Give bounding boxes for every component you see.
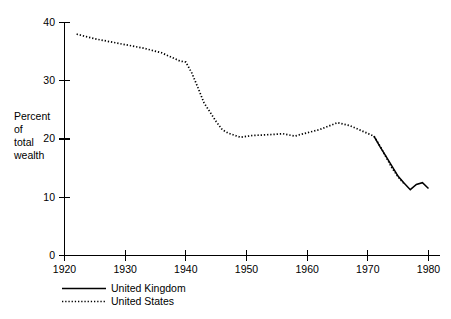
chart-legend: United Kingdom United States	[62, 282, 186, 307]
y-tick-label-10: 10	[43, 191, 55, 203]
x-tick-label-1920: 1920	[53, 263, 77, 275]
y-tick-label-40: 40	[43, 16, 55, 28]
x-tick-label-1950: 1950	[235, 263, 259, 275]
x-tick-label-1940: 1940	[174, 263, 198, 275]
legend-label-united-kingdom: United Kingdom	[111, 282, 186, 294]
legend-item-united-states[interactable]: United States	[62, 295, 174, 307]
chart-figure: Percent of total wealth 40 30 20 10 0	[0, 0, 451, 319]
y-axis-tick-labels: 40 30 20 10 0	[43, 16, 55, 261]
x-tick-label-1960: 1960	[296, 263, 320, 275]
x-tick-label-1980: 1980	[417, 263, 441, 275]
y-axis-caption-line-2: total	[14, 136, 34, 148]
y-axis-caption-line-3: wealth	[13, 149, 45, 161]
legend-label-united-states: United States	[111, 295, 174, 307]
series-line-united-states	[77, 34, 405, 184]
series-line-united-kingdom	[374, 136, 429, 190]
x-tick-label-1970: 1970	[356, 263, 380, 275]
legend-item-united-kingdom[interactable]: United Kingdom	[62, 282, 186, 294]
y-tick-label-20: 20	[43, 132, 55, 144]
x-tick-label-1930: 1930	[114, 263, 138, 275]
y-tick-label-30: 30	[43, 74, 55, 86]
x-axis-tick-labels: 1920 1930 1940 1950 1960 1970 1980	[53, 263, 441, 275]
data-series-group	[77, 34, 429, 190]
axes	[65, 22, 441, 256]
line-chart: Percent of total wealth 40 30 20 10 0	[0, 0, 451, 319]
y-tick-label-0: 0	[49, 249, 55, 261]
y-axis-caption-line-0: Percent	[14, 110, 50, 122]
y-axis-caption-line-1: of	[14, 123, 23, 135]
